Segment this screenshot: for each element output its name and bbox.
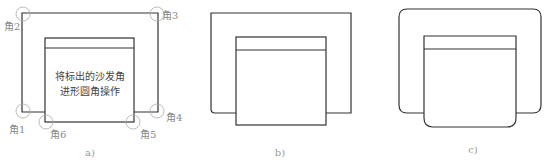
note-line-1: 将标出的沙发角: [55, 70, 125, 82]
figure-c: [399, 9, 541, 127]
corner-label-3: 角3: [162, 10, 178, 21]
caption-c: c): [468, 144, 478, 155]
sofa-back-outline: [399, 9, 541, 113]
sofa-back-outline: [22, 13, 158, 112]
caption-b: b): [275, 147, 285, 158]
corner-marker-4: [150, 104, 164, 118]
corner-marker-1: [16, 104, 30, 118]
corner-markers: [16, 7, 164, 129]
figure-b: [211, 13, 351, 125]
figure-a: [22, 13, 158, 122]
corner-label-5: 角5: [140, 129, 156, 140]
note-line-2: 进形圆角操作: [60, 85, 120, 97]
caption-a: a): [85, 147, 95, 158]
corner-label-6: 角6: [50, 129, 66, 140]
corner-label-4: 角4: [166, 112, 182, 123]
corner-label-2: 角2: [4, 21, 20, 32]
corner-label-1: 角1: [9, 124, 25, 135]
sofa-seat: [424, 36, 516, 127]
corner-marker-2: [16, 7, 30, 21]
sofa-back-outline: [211, 13, 351, 113]
